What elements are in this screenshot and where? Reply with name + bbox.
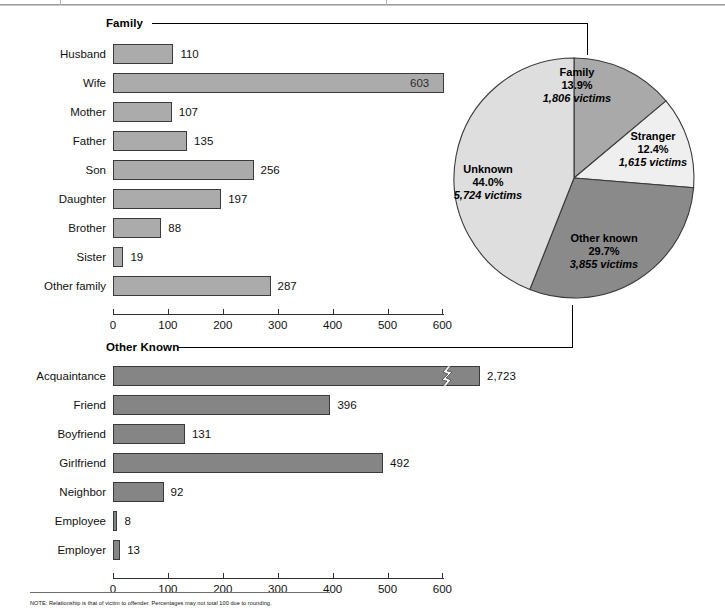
x-axis-tick-label: 600 (433, 319, 452, 331)
bar-row: Girlfriend492 (113, 453, 673, 473)
bar-value-label: 88 (168, 222, 181, 234)
crop-mark-left (60, 0, 61, 5)
bar-row: Friend396 (113, 395, 673, 415)
pie-label-unknown-name: Unknown (438, 163, 538, 176)
x-axis-tick (278, 573, 279, 578)
section-header-other-known: Other Known (106, 341, 179, 353)
x-axis-tick (278, 309, 279, 314)
bar-category-label: Brother (68, 222, 106, 234)
x-axis-tick (113, 309, 114, 314)
x-axis-tick (223, 309, 224, 314)
bar-category-label: Son (86, 164, 106, 176)
pie-label-other-known-percent: 29.7% (552, 245, 656, 258)
x-axis-tick (442, 309, 443, 314)
bar-category-label: Sister (77, 251, 106, 263)
bar-girlfriend (113, 453, 383, 473)
bar-employer (113, 540, 120, 560)
page-top-rule-secondary (0, 5, 725, 6)
bar-value-label: 13 (127, 544, 140, 556)
pie-label-other-known-victims: 3,855 victims (552, 258, 656, 271)
pie-label-stranger-percent: 12.4% (604, 143, 702, 156)
x-axis-tick (388, 573, 389, 578)
bar-boyfriend (113, 424, 185, 444)
pie-label-other-known: Other known 29.7% 3,855 victims (552, 232, 656, 271)
x-axis-tick-label: 0 (110, 319, 116, 331)
bar-value-label: 603 (410, 77, 429, 89)
bar-employee (113, 511, 117, 531)
bar-value-label: 92 (171, 486, 184, 498)
bar-category-label: Daughter (59, 193, 106, 205)
bar-category-label: Father (73, 135, 106, 147)
bar-value-label: 287 (278, 280, 297, 292)
x-axis-tick-label: 200 (213, 319, 232, 331)
bar-daughter (113, 189, 221, 209)
x-axis-tick-label: 600 (433, 583, 452, 595)
x-axis-tick-label: 100 (158, 583, 177, 595)
bar-value-label: 110 (180, 48, 198, 60)
x-axis-line (113, 314, 444, 315)
x-axis-tick-label: 500 (378, 319, 397, 331)
bar-category-label: Friend (73, 399, 106, 411)
pie-label-other-known-name: Other known (552, 232, 656, 245)
bar-value-label: 107 (179, 106, 198, 118)
bar-brother (113, 218, 161, 238)
bar-row: Neighbor92 (113, 482, 673, 502)
pie-label-unknown-percent: 44.0% (438, 176, 538, 189)
x-axis-tick (333, 573, 334, 578)
bar-row: Acquaintance2,723 (113, 366, 673, 386)
pie-label-unknown-victims: 5,724 victims (438, 189, 538, 202)
x-axis-tick-label: 300 (268, 583, 287, 595)
x-axis-line (113, 578, 444, 579)
bar-category-label: Other family (44, 280, 106, 292)
axis-break-marker (440, 366, 454, 386)
pie-label-unknown: Unknown 44.0% 5,724 victims (438, 163, 538, 202)
family-connector-horizontal (152, 23, 588, 24)
x-axis-tick-label: 200 (213, 583, 232, 595)
note-divider (30, 592, 330, 593)
bar-row: Employee8 (113, 511, 673, 531)
bar-mother (113, 102, 172, 122)
bar-value-label: 8 (124, 515, 130, 527)
other-known-connector-horizontal (178, 347, 573, 348)
bar-value-label: 492 (390, 457, 409, 469)
bar-row: Employer13 (113, 540, 673, 560)
pie-label-family: Family 13.9% 1,806 victims (531, 66, 623, 105)
other-known-connector-vertical (572, 305, 573, 348)
bar-value-label: 131 (192, 428, 211, 440)
x-axis-tick (333, 309, 334, 314)
bar-value-label: 19 (130, 251, 143, 263)
bar-value-label: 256 (261, 164, 280, 176)
pie-label-stranger-name: Stranger (604, 130, 702, 143)
pie-label-family-percent: 13.9% (531, 79, 623, 92)
x-axis-tick (113, 573, 114, 578)
section-header-family: Family (106, 17, 143, 29)
bar-category-label: Mother (70, 106, 106, 118)
crop-mark-center (386, 0, 387, 5)
bar-son (113, 160, 254, 180)
pie-label-family-name: Family (531, 66, 623, 79)
bar-category-label: Acquaintance (36, 370, 106, 382)
x-axis-tick (442, 573, 443, 578)
bar-category-label: Girlfriend (59, 457, 106, 469)
figure-page: Family Husband110Wife603Mother107Father1… (0, 0, 725, 616)
bar-sister (113, 247, 123, 267)
bar-value-label: 135 (194, 135, 213, 147)
pie-label-stranger: Stranger 12.4% 1,615 victims (604, 130, 702, 169)
x-axis-tick-label: 400 (323, 583, 342, 595)
x-axis-tick (168, 573, 169, 578)
bar-acquaintance (113, 366, 480, 386)
x-axis-tick (388, 309, 389, 314)
bar-other-family (113, 276, 271, 296)
footnote: NOTE: Relationship is that of victim to … (30, 600, 272, 606)
bar-value-label: 2,723 (487, 370, 516, 382)
bar-friend (113, 395, 330, 415)
bar-value-label: 396 (337, 399, 356, 411)
bar-father (113, 131, 187, 151)
bar-neighbor (113, 482, 164, 502)
bar-category-label: Employee (55, 515, 106, 527)
x-axis-tick-label: 300 (268, 319, 287, 331)
bar-category-label: Wife (83, 77, 106, 89)
x-axis-tick-label: 400 (323, 319, 342, 331)
x-axis-tick-label: 100 (158, 319, 177, 331)
bar-value-label: 197 (228, 193, 247, 205)
